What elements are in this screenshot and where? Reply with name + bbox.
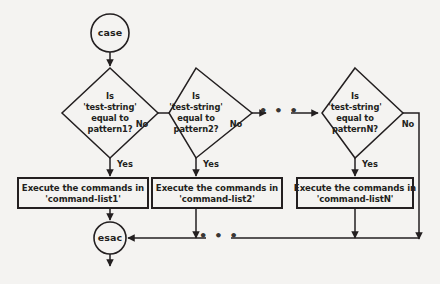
decision-2-line-4: pattern2?	[174, 124, 219, 134]
flowchart-canvas: case Is 'test-string' equal to pattern1?…	[0, 0, 440, 284]
decision-1-no-label: No	[136, 119, 149, 129]
decision-3-line-2: 'test-string'	[328, 102, 381, 112]
action-box-3-line-1: Execute the commands in	[294, 183, 416, 193]
decision-1-yes-label: Yes	[116, 159, 133, 169]
decision-3-line-1: Is	[351, 91, 359, 101]
action-box-1-line-2: 'command-list1'	[45, 194, 120, 204]
start-node-label: case	[98, 27, 123, 38]
action-box-1-line-1: Execute the commands in	[22, 183, 144, 193]
decision-3-no-label: No	[402, 119, 415, 129]
end-node-label: esac	[98, 232, 123, 243]
decision-1-line-4: pattern1?	[88, 124, 133, 134]
decision-2-line-2: 'test-string'	[169, 102, 222, 112]
action-box-2-line-2: 'command-list2'	[179, 194, 254, 204]
decision-2-yes-label: Yes	[202, 159, 219, 169]
decision-2-no-label: No	[230, 119, 243, 129]
flowchart-svg: case Is 'test-string' equal to pattern1?…	[0, 0, 440, 284]
decision-3-yes-label: Yes	[361, 159, 378, 169]
decision-1-line-3: equal to	[91, 113, 129, 123]
action-box-3-line-2: 'command-listN'	[317, 194, 394, 204]
decision-1-line-2: 'test-string'	[83, 102, 136, 112]
connector-decision-3-no-rail	[403, 113, 419, 238]
ellipsis-top: • • •	[259, 103, 299, 118]
action-box-2-line-1: Execute the commands in	[156, 183, 278, 193]
decision-3-line-3: equal to	[336, 113, 374, 123]
ellipsis-bottom: • • •	[199, 228, 239, 243]
decision-3-line-4: patternN?	[332, 124, 378, 134]
decision-1-line-1: Is	[106, 91, 114, 101]
decision-2-line-3: equal to	[177, 113, 215, 123]
decision-2-line-1: Is	[192, 91, 200, 101]
